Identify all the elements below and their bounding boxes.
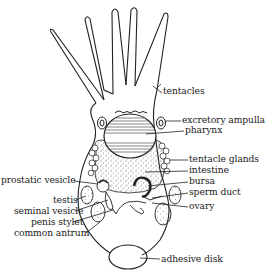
pharynx-shape [104, 114, 156, 158]
label-sperm-duct: sperm duct [189, 187, 241, 197]
label-penis-stylet: penis stylet [31, 217, 83, 227]
label-prostatic-vesicle: prostatic vesicle [1, 175, 76, 185]
label-testis: testis [53, 195, 78, 205]
label-pharynx: pharynx [185, 125, 222, 135]
adhesive-disk-shape [109, 245, 147, 269]
label-seminal-vesicle: seminal vesicle [14, 206, 83, 216]
label-ovary: ovary [189, 201, 214, 211]
label-common-antrum: common antrum [14, 228, 89, 238]
label-adhesive-disk: adhesive disk [161, 254, 223, 264]
label-tentacle-glands: tentacle glands [189, 154, 259, 164]
label-tentacles: tentacles [163, 86, 205, 96]
label-bursa: bursa [189, 176, 215, 186]
label-intestine: intestine [189, 165, 229, 175]
